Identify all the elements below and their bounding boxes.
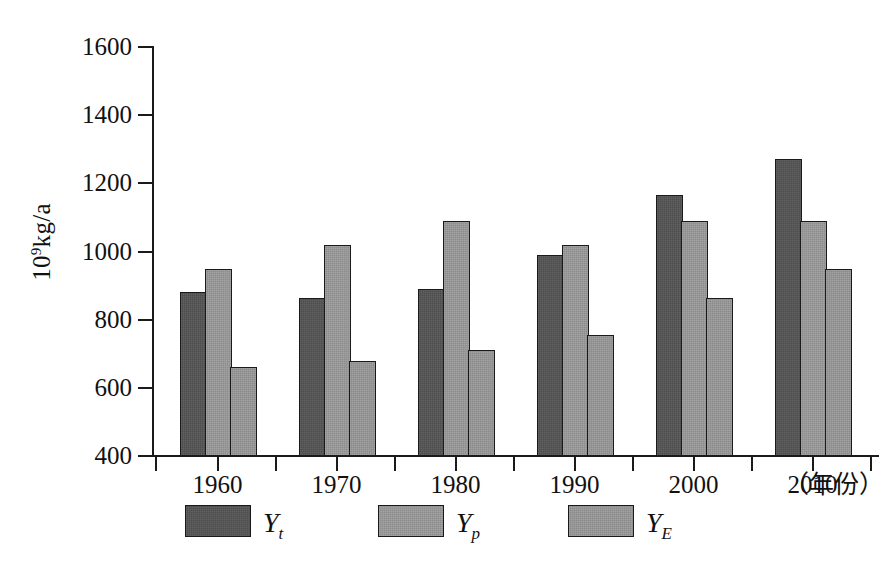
- x-axis-tick: [812, 457, 814, 471]
- x-axis-tick-label-1990: 1990: [515, 472, 635, 497]
- y-axis-tick: [138, 46, 153, 48]
- legend-label-base: Y: [646, 507, 662, 538]
- bar-Y_E-1960: [230, 367, 257, 456]
- bar-Y_t-1990: [537, 255, 564, 456]
- bar-chart-figure: 109kg/a 4006008001000120014001600 196019…: [0, 0, 892, 586]
- x-axis-tick-label-1960: 1960: [158, 472, 278, 497]
- x-axis-tick: [455, 457, 457, 471]
- x-axis-minor-tick: [275, 457, 277, 471]
- y-axis-title: 109kg/a: [28, 162, 56, 322]
- bar-Y_E-2000: [706, 298, 733, 456]
- x-axis-tick: [336, 457, 338, 471]
- y-axis-tick-label: 1200: [60, 170, 132, 195]
- y-axis-title-suffix: kg/a: [28, 203, 55, 247]
- bar-Y_t-2000: [656, 195, 683, 456]
- bar-Y_E-1990: [587, 335, 614, 456]
- legend-item-Y_p[interactable]: Yp: [378, 505, 480, 537]
- y-axis-tick-label: 1600: [60, 34, 132, 59]
- legend-swatch-Y_t: [185, 505, 251, 537]
- x-axis-minor-tick: [751, 457, 753, 471]
- x-axis-line: [152, 455, 879, 457]
- x-axis-minor-tick: [632, 457, 634, 471]
- legend-label-base: Y: [263, 507, 279, 538]
- bar-Y_p-2010: [800, 221, 827, 456]
- y-axis-tick: [138, 455, 153, 457]
- x-axis-tick: [217, 457, 219, 471]
- bar-Y_t-1980: [418, 289, 445, 456]
- legend-label-subscript: E: [662, 524, 672, 543]
- y-axis-title-base: 10: [28, 255, 55, 281]
- y-axis-tick-label: 1400: [60, 102, 132, 127]
- bar-Y_E-1980: [468, 350, 495, 456]
- x-axis-tick: [574, 457, 576, 471]
- y-axis-tick-label: 600: [60, 375, 132, 400]
- legend-label-subscript: t: [279, 524, 284, 543]
- y-axis-tick-label: 800: [60, 307, 132, 332]
- x-axis-tick-label-2000: 2000: [634, 472, 754, 497]
- legend-label-base: Y: [456, 507, 472, 538]
- x-axis-tick-label-1970: 1970: [277, 472, 397, 497]
- x-axis-minor-tick: [394, 457, 396, 471]
- bar-Y_E-1970: [349, 361, 376, 456]
- bar-Y_p-1970: [324, 245, 351, 456]
- bar-Y_t-1970: [299, 298, 326, 456]
- bar-Y_t-1960: [180, 292, 207, 456]
- legend-swatch-Y_E: [568, 505, 634, 537]
- legend-item-Y_t[interactable]: Yt: [185, 505, 283, 537]
- x-axis-tick: [693, 457, 695, 471]
- bar-Y_p-1980: [443, 221, 470, 456]
- bar-Y_p-1960: [205, 269, 232, 456]
- bar-Y_p-1990: [562, 245, 589, 456]
- x-axis-minor-tick: [155, 457, 157, 471]
- x-axis-minor-tick: [870, 457, 872, 471]
- y-axis-tick-label: 1000: [60, 239, 132, 264]
- legend-label-Y_p: Yp: [456, 509, 480, 537]
- legend-item-Y_E[interactable]: YE: [568, 505, 672, 537]
- x-axis-tick-label-1980: 1980: [396, 472, 516, 497]
- y-axis-tick: [138, 319, 153, 321]
- chart-legend: YtYpYE: [150, 505, 750, 555]
- y-axis-tick: [138, 387, 153, 389]
- bar-Y_p-2000: [681, 221, 708, 456]
- legend-swatch-Y_p: [378, 505, 444, 537]
- y-axis-tick: [138, 251, 153, 253]
- bar-Y_E-2010: [825, 269, 852, 456]
- y-axis-title-exponent: 9: [28, 247, 44, 255]
- y-axis-tick: [138, 114, 153, 116]
- bar-Y_t-2010: [775, 159, 802, 456]
- legend-label-Y_E: YE: [646, 509, 672, 537]
- x-axis-title: （年份）: [784, 472, 884, 497]
- legend-label-subscript: p: [472, 524, 481, 543]
- y-axis-tick: [138, 182, 153, 184]
- y-axis-tick-label: 400: [60, 443, 132, 468]
- legend-label-Y_t: Yt: [263, 509, 283, 537]
- x-axis-minor-tick: [513, 457, 515, 471]
